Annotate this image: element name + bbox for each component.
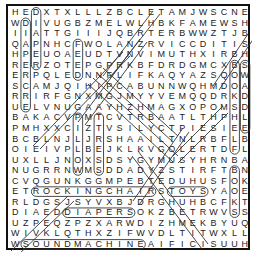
letter-cell[interactable]: H: [83, 228, 93, 239]
letter-cell[interactable]: O: [10, 144, 20, 155]
letter-cell[interactable]: G: [135, 155, 145, 166]
letter-cell[interactable]: B: [114, 7, 124, 18]
letter-cell[interactable]: B: [10, 134, 20, 145]
letter-cell[interactable]: E: [208, 18, 218, 29]
letter-cell[interactable]: I: [94, 81, 104, 92]
letter-cell[interactable]: I: [146, 218, 156, 229]
letter-cell[interactable]: L: [229, 228, 239, 239]
letter-cell[interactable]: G: [187, 60, 197, 71]
letter-cell[interactable]: B: [208, 218, 218, 229]
letter-cell[interactable]: X: [52, 123, 62, 134]
letter-cell[interactable]: H: [167, 218, 177, 229]
letter-cell[interactable]: I: [31, 91, 41, 102]
letter-cell[interactable]: H: [187, 176, 197, 187]
letter-cell[interactable]: R: [198, 134, 208, 145]
letter-cell[interactable]: A: [167, 112, 177, 123]
letter-cell[interactable]: S: [114, 123, 124, 134]
letter-cell[interactable]: I: [208, 39, 218, 50]
letter-cell[interactable]: G: [62, 18, 72, 29]
letter-cell[interactable]: S: [198, 186, 208, 197]
letter-cell[interactable]: V: [156, 91, 166, 102]
letter-cell[interactable]: E: [156, 28, 166, 39]
letter-cell[interactable]: E: [187, 218, 197, 229]
letter-cell[interactable]: B: [31, 134, 41, 145]
letter-cell[interactable]: K: [146, 207, 156, 218]
letter-cell[interactable]: W: [208, 207, 218, 218]
letter-cell[interactable]: C: [187, 239, 197, 250]
letter-cell[interactable]: N: [125, 39, 135, 50]
letter-cell[interactable]: U: [177, 197, 187, 208]
letter-cell[interactable]: Z: [208, 28, 218, 39]
letter-cell[interactable]: B: [229, 49, 239, 60]
letter-cell[interactable]: A: [31, 28, 41, 39]
letter-cell[interactable]: H: [187, 197, 197, 208]
letter-cell[interactable]: W: [83, 39, 93, 50]
letter-cell[interactable]: D: [73, 70, 83, 81]
letter-cell[interactable]: T: [73, 228, 83, 239]
letter-cell[interactable]: L: [135, 7, 145, 18]
letter-cell[interactable]: T: [177, 228, 187, 239]
letter-cell[interactable]: L: [135, 123, 145, 134]
letter-cell[interactable]: G: [41, 197, 51, 208]
letter-cell[interactable]: S: [229, 102, 239, 113]
letter-cell[interactable]: E: [198, 123, 208, 134]
letter-cell[interactable]: I: [125, 70, 135, 81]
letter-cell[interactable]: D: [198, 39, 208, 50]
letter-cell[interactable]: I: [208, 49, 218, 60]
letter-cell[interactable]: L: [240, 112, 250, 123]
letter-cell[interactable]: R: [114, 60, 124, 71]
letter-cell[interactable]: Q: [219, 70, 229, 81]
letter-cell[interactable]: D: [135, 165, 145, 176]
letter-cell[interactable]: E: [20, 60, 30, 71]
letter-cell[interactable]: V: [52, 144, 62, 155]
letter-cell[interactable]: I: [156, 239, 166, 250]
letter-cell[interactable]: C: [94, 239, 104, 250]
letter-cell[interactable]: Q: [198, 91, 208, 102]
letter-cell[interactable]: O: [41, 186, 51, 197]
letter-cell[interactable]: Y: [187, 155, 197, 166]
letter-cell[interactable]: W: [198, 28, 208, 39]
letter-cell[interactable]: I: [219, 123, 229, 134]
letter-cell[interactable]: X: [41, 123, 51, 134]
letter-cell[interactable]: N: [167, 81, 177, 92]
letter-cell[interactable]: R: [20, 91, 30, 102]
letter-cell[interactable]: V: [114, 112, 124, 123]
letter-cell[interactable]: Z: [135, 39, 145, 50]
letter-cell[interactable]: O: [94, 39, 104, 50]
letter-cell[interactable]: B: [114, 197, 124, 208]
letter-cell[interactable]: U: [229, 218, 239, 229]
letter-cell[interactable]: G: [41, 176, 51, 187]
letter-cell[interactable]: A: [125, 81, 135, 92]
letter-cell[interactable]: W: [198, 7, 208, 18]
letter-cell[interactable]: V: [146, 144, 156, 155]
letter-cell[interactable]: Y: [208, 186, 218, 197]
letter-cell[interactable]: R: [219, 49, 229, 60]
letter-cell[interactable]: M: [94, 91, 104, 102]
letter-cell[interactable]: R: [31, 186, 41, 197]
letter-cell[interactable]: W: [240, 70, 250, 81]
letter-cell[interactable]: A: [187, 70, 197, 81]
letter-cell[interactable]: S: [114, 155, 124, 166]
letter-cell[interactable]: C: [177, 39, 187, 50]
letter-cell[interactable]: L: [125, 144, 135, 155]
letter-cell[interactable]: Y: [135, 91, 145, 102]
letter-cell[interactable]: H: [114, 102, 124, 113]
letter-cell[interactable]: R: [146, 39, 156, 50]
letter-cell[interactable]: D: [20, 18, 30, 29]
letter-cell[interactable]: A: [167, 7, 177, 18]
letter-cell[interactable]: M: [146, 102, 156, 113]
letter-cell[interactable]: F: [229, 144, 239, 155]
letter-cell[interactable]: Z: [125, 102, 135, 113]
letter-cell[interactable]: E: [10, 70, 20, 81]
letter-cell[interactable]: U: [219, 239, 229, 250]
letter-cell[interactable]: H: [104, 239, 114, 250]
letter-cell[interactable]: N: [219, 155, 229, 166]
letter-cell[interactable]: L: [41, 134, 51, 145]
letter-cell[interactable]: L: [73, 7, 83, 18]
letter-cell[interactable]: I: [20, 207, 30, 218]
letter-cell[interactable]: G: [94, 60, 104, 71]
letter-cell[interactable]: K: [114, 144, 124, 155]
letter-cell[interactable]: K: [240, 176, 250, 187]
letter-cell[interactable]: M: [177, 91, 187, 102]
letter-cell[interactable]: B: [198, 197, 208, 208]
